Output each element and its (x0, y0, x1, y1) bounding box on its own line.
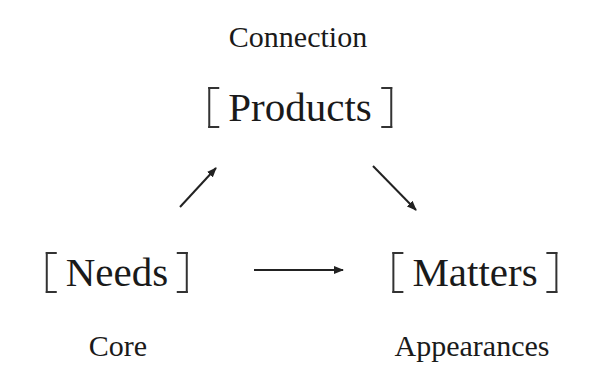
arrow-needs-to-products-icon (180, 168, 216, 207)
arrows-layer (0, 0, 597, 386)
arrow-products-to-matters-icon (373, 166, 416, 210)
